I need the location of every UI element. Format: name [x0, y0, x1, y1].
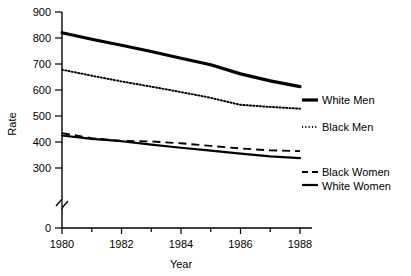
- series-line-white-women: [62, 136, 300, 159]
- legend-label-white-men: White Men: [322, 94, 375, 106]
- axes-group: [56, 12, 312, 228]
- x-tick-label-1982: 1982: [109, 238, 133, 250]
- y-tick-label-400: 400: [33, 136, 51, 148]
- y-axis-title: Rate: [6, 112, 18, 135]
- y-tick-label-800: 800: [33, 32, 51, 44]
- series-line-white-men: [62, 33, 300, 87]
- y-tick-label-500: 500: [33, 110, 51, 122]
- x-tick-label-1984: 1984: [169, 238, 193, 250]
- x-tick-group: [62, 228, 300, 234]
- legend-label-black-men: Black Men: [322, 121, 373, 133]
- x-axis-title: Year: [170, 258, 193, 270]
- y-tick-group: [55, 12, 62, 228]
- y-tick-label-900: 900: [33, 6, 51, 18]
- y-tick-label-600: 600: [33, 84, 51, 96]
- line-chart: 900 800 700 600 500 400 300 0 1980 1982 …: [0, 0, 411, 276]
- y-tick-label-0: 0: [45, 222, 51, 234]
- series-group: [62, 33, 300, 158]
- y-tick-label-300: 300: [33, 162, 51, 174]
- legend-label-black-women: Black Women: [322, 166, 390, 178]
- y-axis-break-mark: [56, 199, 68, 208]
- y-tick-label-group: 900 800 700 600 500 400 300 0: [33, 6, 51, 234]
- x-tick-label-1986: 1986: [228, 238, 252, 250]
- x-tick-label-group: 1980 1982 1984 1986 1988: [50, 238, 312, 250]
- y-tick-label-700: 700: [33, 58, 51, 70]
- chart-canvas: 900 800 700 600 500 400 300 0 1980 1982 …: [0, 0, 411, 276]
- series-line-black-men: [62, 70, 300, 109]
- x-tick-label-1988: 1988: [288, 238, 312, 250]
- legend-group: White Men Black Men Black Women White Wo…: [302, 94, 391, 192]
- x-tick-label-1980: 1980: [50, 238, 74, 250]
- legend-label-white-women: White Women: [322, 180, 391, 192]
